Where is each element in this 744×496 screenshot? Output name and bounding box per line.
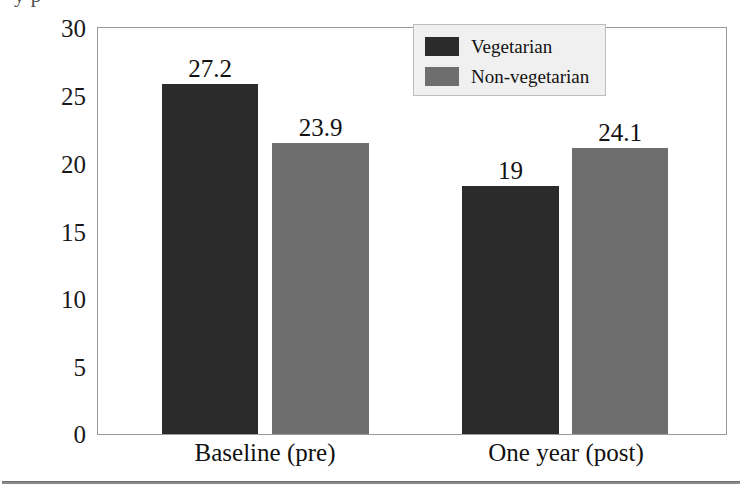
y-tick-10: 10 (8, 287, 86, 312)
bar-value-label: 24.1 (598, 120, 642, 145)
page-divider-rule (2, 481, 740, 484)
legend-item-non-vegetarian[interactable]: Non-vegetarian (425, 62, 605, 90)
bar-value-label: 19 (498, 158, 523, 183)
bar-nonvegetarian-oneyear[interactable]: 24.1 (572, 148, 668, 434)
chart-legend: Vegetarian Non-vegetarian (413, 24, 606, 96)
y-tick-0: 0 (8, 422, 86, 447)
legend-swatch-icon (425, 37, 459, 56)
bar-vegetarian-oneyear[interactable]: 19 (462, 186, 559, 434)
y-tick-30: 30 (8, 16, 86, 41)
y-tick-25: 25 (8, 84, 86, 109)
legend-label: Non-vegetarian (471, 67, 589, 86)
bar-value-label: 23.9 (299, 115, 343, 140)
cut-off-title-remnant: y p (0, 0, 744, 9)
y-tick-20: 20 (8, 152, 86, 177)
bar-vegetarian-baseline[interactable]: 27.2 (162, 84, 258, 434)
bar-chart-figure: y p 30 25 20 15 10 5 0 27.2 23.9 19 24.1… (0, 0, 744, 496)
legend-item-vegetarian[interactable]: Vegetarian (425, 32, 605, 60)
y-tick-5: 5 (8, 355, 86, 380)
x-axis-category-baseline: Baseline (pre) (155, 440, 375, 465)
x-axis-category-one-year: One year (post) (456, 440, 676, 465)
y-axis-tick-labels: 30 25 20 15 10 5 0 (0, 0, 86, 496)
legend-label: Vegetarian (471, 37, 552, 56)
legend-swatch-icon (425, 67, 459, 86)
bar-value-label: 27.2 (188, 56, 232, 81)
y-tick-15: 15 (8, 220, 86, 245)
bar-nonvegetarian-baseline[interactable]: 23.9 (272, 143, 369, 434)
bars-layer: 27.2 23.9 19 24.1 (98, 28, 726, 434)
